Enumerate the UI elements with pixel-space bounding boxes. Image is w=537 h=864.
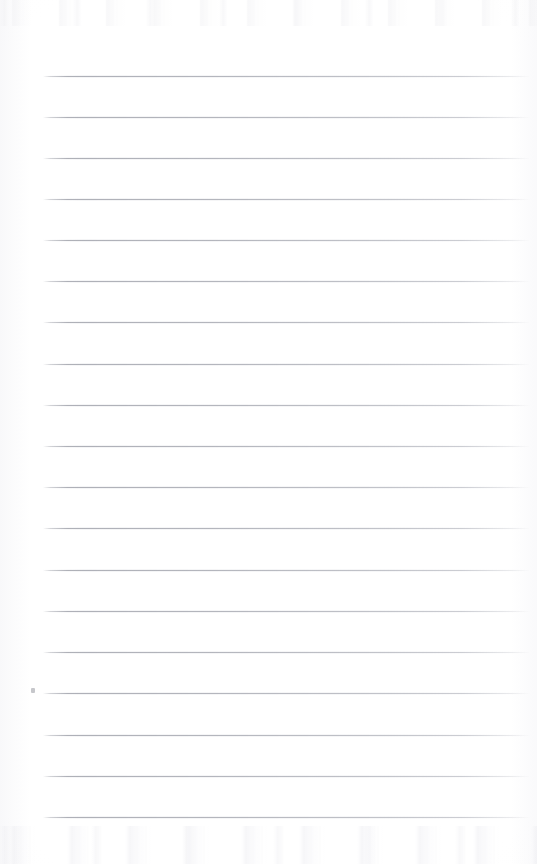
scan-speck-artifact [31, 688, 35, 693]
ruled-line-ink [43, 158, 530, 159]
ruled-line [43, 611, 530, 612]
ruled-line-ink [43, 281, 530, 282]
scanned-page [0, 0, 537, 864]
ruled-line-ink [43, 652, 530, 653]
ruled-line [43, 199, 530, 200]
ruled-line [43, 528, 530, 529]
ruled-line-ink [43, 487, 530, 488]
ruled-line [43, 570, 530, 571]
ruled-line-ink [43, 570, 530, 571]
ruled-line-ink [43, 693, 530, 694]
ruled-line-ink [43, 322, 530, 323]
ruled-line [43, 322, 530, 323]
ruled-line-ink [43, 446, 530, 447]
ruled-line [43, 158, 530, 159]
ruled-line [43, 405, 530, 406]
ruled-lines-group [0, 0, 537, 864]
ruled-line [43, 693, 530, 694]
ruled-line [43, 364, 530, 365]
ruled-line-ink [43, 611, 530, 612]
ruled-line [43, 776, 530, 777]
ruled-line-ink [43, 817, 530, 818]
ruled-line [43, 281, 530, 282]
ruled-line-ink [43, 405, 530, 406]
ruled-line-ink [43, 735, 530, 736]
ruled-line-ink [43, 528, 530, 529]
ruled-line [43, 117, 530, 118]
ruled-line [43, 76, 530, 77]
ruled-line-ink [43, 240, 530, 241]
ruled-line-ink [43, 76, 530, 77]
ruled-line [43, 487, 530, 488]
ruled-line [43, 240, 530, 241]
ruled-line-ink [43, 199, 530, 200]
ruled-line-ink [43, 776, 530, 777]
ruled-line-ink [43, 364, 530, 365]
ruled-line [43, 652, 530, 653]
ruled-line [43, 446, 530, 447]
ruled-line-ink [43, 117, 530, 118]
ruled-line [43, 735, 530, 736]
ruled-line [43, 817, 530, 818]
